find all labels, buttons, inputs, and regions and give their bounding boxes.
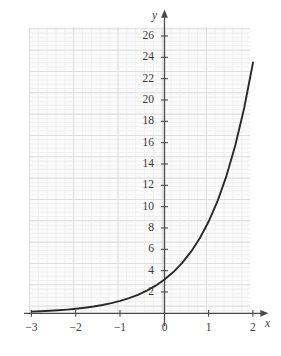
y-tick-label-8: 8: [118, 222, 154, 234]
y-tick-label-6: 6: [118, 243, 154, 255]
y-tick-label-18: 18: [118, 115, 154, 127]
y-tick-label-2: 2: [118, 286, 154, 298]
y-axis-label: y: [152, 10, 157, 22]
y-tick-label-26: 26: [118, 30, 154, 42]
y-tick-label-24: 24: [118, 51, 154, 63]
x-tick-label-zero: 0: [150, 322, 180, 334]
x-tick-label-minus-1: −1: [105, 322, 135, 334]
exponential-function-graph: 26 24 22 20 18 16 14 12 10 8 6 4 2 −3 −2…: [0, 0, 281, 356]
y-tick-label-12: 12: [118, 179, 154, 191]
y-tick-label-14: 14: [118, 158, 154, 170]
x-tick-label-minus-3: −3: [16, 322, 46, 334]
x-tick-label-2: 2: [238, 322, 268, 334]
x-axis-label: x: [265, 318, 270, 330]
y-tick-label-22: 22: [118, 73, 154, 85]
y-tick-label-4: 4: [118, 265, 154, 277]
y-tick-label-10: 10: [118, 201, 154, 213]
y-tick-label-16: 16: [118, 137, 154, 149]
x-tick-label-minus-2: −2: [61, 322, 91, 334]
x-tick-label-1: 1: [194, 322, 224, 334]
y-tick-label-20: 20: [118, 94, 154, 106]
